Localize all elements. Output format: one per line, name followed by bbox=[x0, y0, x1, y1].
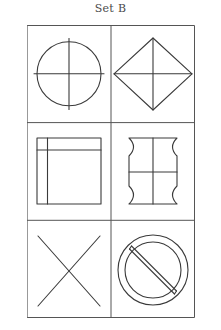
slash-bar-edge-1 bbox=[132, 246, 177, 291]
square-outline-icon bbox=[37, 138, 101, 204]
outer-circle-icon bbox=[118, 235, 188, 305]
cell-6-prohibition-sign[interactable] bbox=[118, 235, 188, 305]
matrix-svg bbox=[27, 25, 195, 318]
slash-bar-cap-top bbox=[130, 246, 132, 249]
cell-1-circle-with-cross[interactable] bbox=[34, 39, 104, 110]
cell-5-x-cross[interactable] bbox=[38, 236, 100, 306]
cell-3-square-with-offset-lines[interactable] bbox=[37, 138, 101, 204]
slash-bar-edge-2 bbox=[130, 249, 175, 294]
page-title: Set B bbox=[0, 2, 221, 16]
matrix-panel: Set B bbox=[0, 0, 221, 330]
matrix-grid bbox=[27, 25, 195, 318]
cell-2-diamond-with-cross[interactable] bbox=[114, 38, 192, 110]
cell-4-concave-corner-square-with-cross[interactable] bbox=[129, 138, 177, 204]
slash-bar-cap-bottom bbox=[175, 291, 177, 294]
inner-circle-icon bbox=[125, 242, 181, 298]
